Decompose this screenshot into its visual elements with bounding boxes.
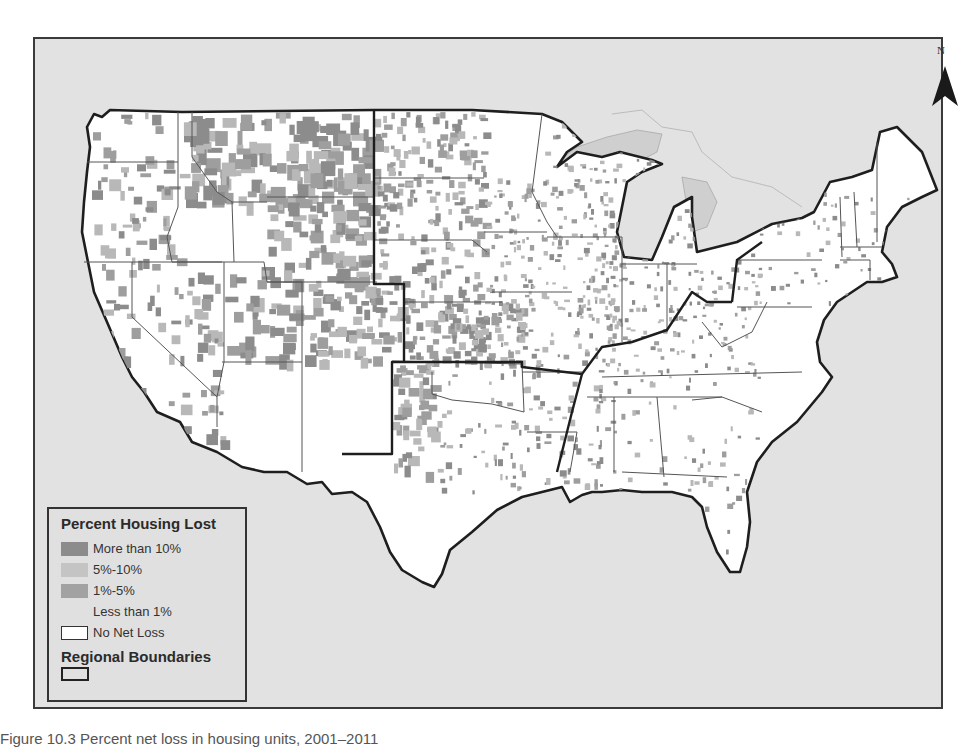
county-patch — [697, 301, 700, 305]
county-patch — [358, 219, 366, 225]
county-patch — [623, 551, 626, 557]
county-patch — [519, 430, 521, 436]
county-patch — [831, 205, 834, 207]
county-patch — [713, 241, 718, 244]
county-patch — [599, 394, 602, 399]
county-patch — [901, 287, 905, 290]
county-patch — [183, 393, 191, 398]
county-patch — [600, 484, 603, 487]
county-patch — [617, 126, 620, 132]
county-patch — [202, 458, 210, 467]
county-patch — [118, 411, 129, 417]
county-patch — [490, 285, 493, 288]
county-patch — [375, 137, 382, 141]
county-patch — [92, 190, 103, 200]
county-patch — [361, 358, 368, 369]
county-patch — [215, 131, 228, 146]
county-patch — [421, 303, 428, 309]
county-patch — [497, 190, 502, 192]
county-patch — [758, 377, 761, 379]
county-patch — [520, 464, 523, 470]
county-patch — [628, 441, 632, 444]
county-patch — [370, 140, 385, 152]
county-patch — [277, 163, 287, 174]
county-patch — [622, 507, 625, 510]
county-patch — [95, 427, 105, 438]
county-patch — [481, 151, 488, 154]
county-patch — [150, 239, 158, 250]
county-patch — [552, 187, 558, 192]
county-patch — [650, 439, 653, 442]
county-patch — [358, 184, 372, 190]
county-patch — [213, 192, 225, 205]
county-patch — [735, 368, 739, 372]
county-patch — [643, 372, 646, 375]
county-patch — [196, 128, 210, 144]
county-patch — [670, 348, 675, 351]
county-patch — [654, 287, 657, 291]
county-patch — [392, 422, 400, 430]
county-patch — [599, 445, 602, 449]
county-patch — [517, 214, 519, 219]
county-patch — [555, 301, 558, 306]
county-patch — [461, 209, 469, 214]
county-patch — [754, 369, 756, 373]
county-patch — [322, 212, 328, 218]
county-patch — [595, 348, 597, 351]
county-patch — [103, 457, 112, 466]
county-patch — [675, 544, 679, 546]
county-patch — [632, 515, 636, 517]
county-patch — [705, 363, 708, 368]
county-patch — [411, 236, 414, 240]
county-patch — [342, 114, 352, 120]
county-patch — [430, 196, 437, 202]
county-patch — [662, 262, 664, 264]
county-patch — [674, 287, 678, 291]
county-patch — [628, 478, 633, 483]
county-patch — [631, 329, 636, 331]
county-patch — [583, 295, 586, 298]
county-patch — [219, 412, 223, 416]
county-patch — [669, 168, 674, 173]
county-patch — [583, 304, 586, 306]
county-patch — [420, 337, 426, 341]
county-patch — [418, 447, 424, 452]
county-patch — [709, 139, 714, 142]
county-patch — [295, 279, 303, 291]
county-patch — [578, 344, 582, 350]
county-patch — [745, 479, 747, 485]
county-patch — [582, 552, 584, 556]
county-patch — [709, 481, 713, 487]
county-patch — [717, 277, 722, 280]
county-patch — [604, 233, 606, 237]
county-patch — [124, 356, 131, 368]
county-patch — [749, 411, 754, 414]
county-patch — [597, 461, 601, 465]
county-patch — [536, 436, 540, 441]
county-patch — [727, 530, 730, 534]
county-patch — [393, 192, 399, 198]
county-patch — [204, 168, 217, 175]
county-patch — [446, 155, 454, 160]
county-patch — [833, 216, 838, 221]
county-patch — [673, 332, 678, 337]
county-patch — [597, 426, 599, 432]
county-patch — [448, 209, 452, 215]
legend-label: 1%-5% — [93, 583, 135, 598]
county-patch — [602, 285, 608, 290]
county-patch — [618, 363, 621, 366]
county-patch — [210, 405, 215, 412]
county-patch — [652, 562, 657, 567]
county-patch — [584, 248, 590, 253]
county-patch — [532, 286, 535, 289]
county-patch — [507, 315, 514, 321]
county-patch — [465, 277, 470, 284]
county-patch — [401, 118, 407, 126]
county-patch — [627, 327, 631, 330]
county-patch — [265, 356, 280, 365]
county-patch — [907, 250, 912, 254]
county-patch — [745, 230, 749, 232]
county-patch — [680, 171, 685, 176]
county-patch — [397, 203, 402, 210]
county-patch — [268, 205, 279, 212]
